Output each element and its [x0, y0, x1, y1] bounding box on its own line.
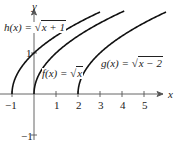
x-tick-label: 5	[142, 100, 148, 111]
x-axis-label: x	[168, 89, 173, 100]
x-tick-label: 4	[120, 100, 126, 111]
y-tick-label: 1	[26, 48, 32, 59]
g-curve	[78, 12, 166, 94]
f-function-label: f(x) = √x	[42, 68, 83, 79]
x-tick-label: 1	[54, 100, 60, 111]
x-tick-label: −1	[5, 100, 17, 111]
x-tick-label: 2	[76, 100, 82, 111]
h-function-label: h(x) = √x + 1	[4, 22, 66, 33]
x-tick-label: 3	[98, 100, 104, 111]
radical-icon: √	[35, 21, 41, 33]
y-tick-label: −1	[21, 131, 33, 142]
radical-icon: √	[132, 57, 138, 69]
g-function-label: g(x) = √x − 2	[101, 58, 163, 69]
y-axis-label: y	[32, 1, 37, 12]
